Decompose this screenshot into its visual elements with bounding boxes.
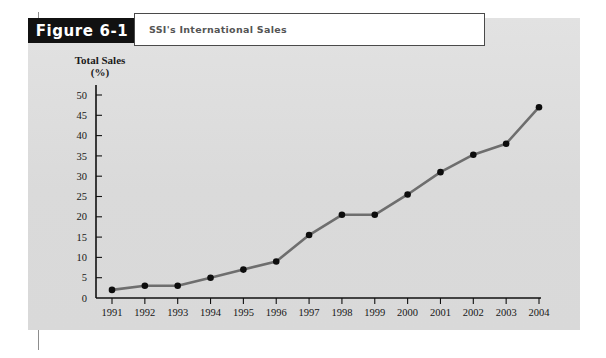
- data-point: [240, 266, 247, 273]
- data-point: [371, 211, 378, 218]
- x-tick-label: 1996: [266, 307, 287, 318]
- data-point: [174, 283, 181, 290]
- x-tick-label: 1997: [299, 307, 320, 318]
- y-tick-label: 25: [77, 191, 88, 202]
- data-point: [109, 287, 116, 294]
- sales-series-line: [112, 107, 539, 290]
- x-tick-label: 2001: [430, 307, 451, 318]
- y-tick-label: 35: [77, 151, 88, 162]
- y-tick-label: 10: [77, 252, 88, 263]
- data-point: [404, 191, 411, 198]
- y-tick-label: 15: [77, 232, 88, 243]
- x-tick-label: 2000: [397, 307, 418, 318]
- data-point: [273, 258, 280, 265]
- x-axis-ticks: 1991199219931994199519961997199819992000…: [102, 298, 551, 318]
- data-point: [470, 151, 477, 158]
- x-tick-label: 2003: [496, 307, 517, 318]
- x-tick-label: 1999: [364, 307, 385, 318]
- y-tick-label: 50: [77, 90, 88, 101]
- data-point: [142, 283, 149, 290]
- y-tick-label: 30: [77, 171, 88, 182]
- data-point: [306, 232, 313, 239]
- x-tick-label: 1994: [200, 307, 222, 318]
- x-tick-label: 1998: [331, 307, 352, 318]
- data-point: [339, 211, 346, 218]
- x-tick-label: 2004: [529, 307, 551, 318]
- y-tick-label: 40: [77, 130, 88, 141]
- data-point: [503, 140, 510, 147]
- y-tick-label: 45: [77, 110, 88, 121]
- y-tick-label: 5: [82, 272, 87, 283]
- x-tick-label: 1993: [167, 307, 188, 318]
- line-chart: 05101520253035404550 1991199219931994199…: [28, 18, 580, 330]
- x-tick-label: 1995: [233, 307, 254, 318]
- x-tick-label: 1992: [134, 307, 155, 318]
- sales-series-markers: [109, 104, 543, 293]
- y-axis-ticks: 05101520253035404550: [77, 90, 103, 304]
- data-point: [536, 104, 543, 111]
- y-tick-label: 20: [77, 211, 88, 222]
- x-tick-label: 2002: [463, 307, 484, 318]
- data-point: [437, 169, 444, 176]
- data-point: [207, 274, 214, 281]
- x-tick-label: 1991: [102, 307, 123, 318]
- y-tick-label: 0: [82, 293, 87, 304]
